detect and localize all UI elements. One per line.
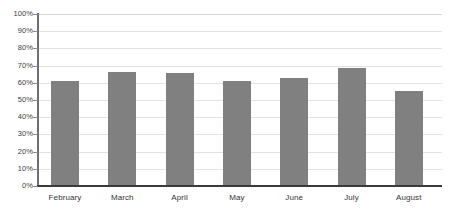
- bar-february[interactable]: [51, 81, 79, 186]
- y-axis-labels: 100% 90% 80% 70% 60% 50% 40% 30% 20% 10%…: [0, 0, 33, 221]
- ytick-label-0: 0%: [1, 182, 33, 190]
- ytick-label-10: 10%: [1, 165, 33, 173]
- ytick-mark-40: [33, 117, 38, 118]
- ytick-mark-50: [33, 100, 38, 101]
- plot-area: [39, 14, 442, 186]
- ytick-label-80: 80%: [1, 44, 33, 52]
- bar-april[interactable]: [166, 73, 194, 186]
- ytick-mark-90: [33, 31, 38, 32]
- ytick-mark-0: [33, 186, 38, 187]
- bar-august[interactable]: [395, 91, 423, 186]
- ytick-mark-70: [33, 66, 38, 67]
- ytick-mark-100: [33, 14, 38, 15]
- ytick-mark-80: [33, 48, 38, 49]
- gridline-90: [39, 31, 442, 32]
- ytick-label-20: 20%: [1, 148, 33, 156]
- ytick-label-90: 90%: [1, 27, 33, 35]
- bar-chart: 100% 90% 80% 70% 60% 50% 40% 30% 20% 10%…: [0, 0, 453, 221]
- gridline-80: [39, 48, 442, 49]
- x-axis-line: [37, 185, 442, 187]
- ytick-mark-20: [33, 152, 38, 153]
- ytick-label-70: 70%: [1, 62, 33, 70]
- ytick-label-40: 40%: [1, 113, 33, 121]
- xtick-label-august: August: [371, 193, 447, 203]
- bar-june[interactable]: [280, 78, 308, 186]
- bar-july[interactable]: [338, 68, 366, 186]
- bar-may[interactable]: [223, 81, 251, 186]
- ytick-label-100: 100%: [1, 10, 33, 18]
- ytick-mark-30: [33, 134, 38, 135]
- ytick-label-30: 30%: [1, 130, 33, 138]
- ytick-mark-60: [33, 83, 38, 84]
- gridline-70: [39, 66, 442, 67]
- ytick-label-60: 60%: [1, 79, 33, 87]
- gridline-100: [39, 14, 442, 15]
- ytick-label-50: 50%: [1, 96, 33, 104]
- ytick-mark-10: [33, 169, 38, 170]
- bar-march[interactable]: [108, 72, 136, 186]
